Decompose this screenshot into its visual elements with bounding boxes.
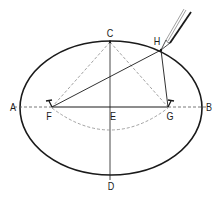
- pin-icon: [46, 100, 52, 107]
- label-a: A: [10, 102, 16, 113]
- pencil-icon: [161, 9, 191, 50]
- label-f: F: [46, 111, 52, 122]
- point-h-marker: [160, 49, 162, 51]
- string-line-fh: [52, 50, 161, 107]
- label-g: G: [166, 111, 173, 122]
- string-line-hg: [161, 50, 168, 107]
- label-c: C: [107, 28, 114, 39]
- label-b: B: [206, 102, 212, 113]
- ellipse-outline: [20, 41, 202, 175]
- label-e: E: [110, 111, 116, 122]
- point-c-marker: [109, 41, 111, 43]
- label-d: D: [108, 181, 115, 192]
- pin-icon: [168, 100, 174, 107]
- label-h: H: [154, 36, 161, 47]
